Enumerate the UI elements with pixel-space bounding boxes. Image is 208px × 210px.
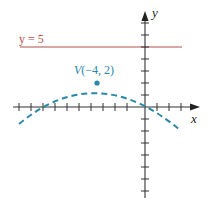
x-axis-arrow-icon <box>190 104 200 111</box>
y-axis-label: y <box>152 6 158 19</box>
vertex-point <box>94 80 99 85</box>
line-label: y = 5 <box>19 33 44 45</box>
vertex-label-coords: (−4, 2) <box>81 63 114 77</box>
parabola-curve <box>19 93 181 131</box>
y-axis-arrow-icon <box>142 11 149 21</box>
x-axis-label: x <box>191 112 197 125</box>
vertex-label: V(−4, 2) <box>74 64 114 76</box>
